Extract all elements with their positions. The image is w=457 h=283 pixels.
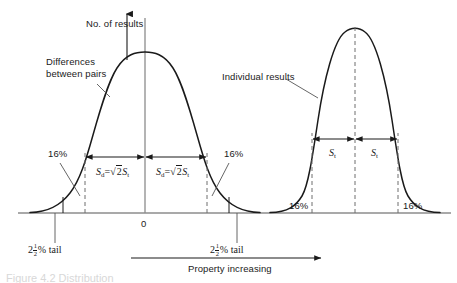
- tail-label-right: 212% tail: [210, 243, 243, 257]
- tail-label-left-whole: 2: [28, 244, 33, 255]
- label-st-left: St: [329, 147, 336, 160]
- label-st-right: St: [371, 147, 378, 160]
- x-direction-label: Property increasing: [188, 263, 272, 274]
- figure-caption-partial: Figure 4.2 Distribution: [6, 272, 114, 283]
- x-axis-origin-label: 0: [141, 218, 146, 229]
- tail-label-right-suffix: % tail: [220, 244, 244, 255]
- figure-normal-distributions: No. of results Differences between pairs…: [0, 0, 457, 283]
- tail-label-left: 212% tail: [28, 243, 61, 257]
- tail-label-right-fraction: 12: [215, 243, 219, 257]
- formula-sd-left: Sd=√2St: [96, 166, 129, 179]
- tail-label-right-whole: 2: [210, 244, 215, 255]
- formula-sd-right: Sd=√2St: [156, 166, 189, 179]
- tail-label-left-suffix: % tail: [38, 244, 62, 255]
- formula-sd-right-rhs-sub: t: [187, 171, 189, 179]
- percent-16-right-outer-left: 16%: [289, 200, 308, 211]
- y-axis-label: No. of results: [86, 18, 143, 29]
- percent-16-left-inner: 16%: [224, 148, 243, 159]
- label-st-left-sub: t: [334, 152, 336, 160]
- formula-sd-right-radical: √: [170, 166, 176, 177]
- curve-left-label-line1: Differences: [46, 56, 95, 67]
- tail-label-left-den: 2: [33, 251, 37, 258]
- formula-sd-left-rhs-sub: t: [127, 171, 129, 179]
- distribution-diagram-svg: [0, 0, 457, 283]
- curve-right-label: Individual results: [222, 71, 295, 82]
- label-st-right-sub: t: [376, 152, 378, 160]
- formula-sd-left-radical: √: [110, 166, 116, 177]
- tail-label-right-den: 2: [215, 251, 219, 258]
- percent-16-left-outer: 16%: [48, 148, 67, 159]
- percent-16-right-outer-right: 16%: [403, 200, 422, 211]
- curve-left-label-line2: between pairs: [46, 68, 106, 79]
- leader-line-16pct-a: [60, 163, 80, 196]
- tail-label-left-fraction: 12: [33, 243, 37, 257]
- leader-line-16pct-b: [212, 163, 229, 196]
